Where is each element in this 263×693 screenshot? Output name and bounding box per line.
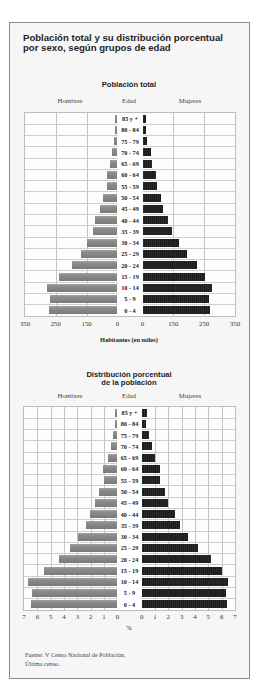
age-group-label: 15 - 19: [118, 271, 143, 282]
bar-hombres: [95, 216, 117, 224]
bar-hombres: [95, 499, 117, 507]
chart2-header-mujeres: Mujeres: [160, 392, 220, 399]
bar-hombres: [28, 578, 117, 586]
bar-hombres: [104, 476, 117, 484]
age-group-label: 10 - 14: [118, 282, 143, 293]
age-group-label: 80 - 84: [117, 418, 141, 429]
census-note: Último censo.: [25, 660, 60, 667]
bar-mujeres: [143, 182, 157, 190]
bar-mujeres: [142, 578, 229, 586]
chart2-title: Distribución porcentual de la población: [59, 371, 199, 388]
chart1-title: Población total: [59, 81, 199, 89]
chart2-plot-area: 85 y +80 - 8475 - 7970 - 7465 - 6960 - 6…: [23, 406, 236, 611]
age-group-label: 20 - 24: [117, 554, 141, 565]
age-group-label: 85 y +: [117, 407, 141, 418]
chart2-title-line2: de la población: [59, 379, 199, 387]
chart1-plot-area: 85 y +80 - 8475 - 7970 - 7465 - 6960 - 6…: [24, 112, 236, 317]
bar-hombres: [113, 431, 117, 439]
bar-hombres: [107, 182, 118, 190]
bar-hombres: [59, 555, 117, 563]
bar-mujeres: [142, 465, 160, 473]
bar-mujeres: [143, 227, 173, 235]
age-group-label: 25 - 29: [118, 248, 143, 259]
age-group-label: 35 - 39: [118, 226, 143, 237]
bar-hombres: [108, 454, 117, 462]
bar-hombres: [115, 126, 117, 134]
bar-mujeres: [143, 126, 146, 134]
age-group-label: 55 - 59: [117, 475, 141, 486]
bar-mujeres: [143, 261, 198, 269]
bar-hombres: [112, 148, 118, 156]
age-group-label: 35 - 39: [117, 520, 141, 531]
bar-mujeres: [143, 171, 157, 179]
bar-mujeres: [143, 284, 212, 292]
bar-mujeres: [143, 205, 164, 213]
age-group-label: 60 - 64: [117, 463, 141, 474]
bar-mujeres: [143, 250, 188, 258]
bar-mujeres: [142, 567, 222, 575]
bar-hombres: [59, 273, 118, 281]
bar-hombres: [44, 567, 117, 575]
figure-title-line2: por sexo, según grupos de edad: [23, 43, 223, 53]
bar-hombres: [103, 465, 117, 473]
bar-hombres: [103, 194, 118, 202]
bar-mujeres: [143, 148, 151, 156]
bar-mujeres: [143, 306, 211, 314]
bar-mujeres: [142, 409, 147, 417]
bar-hombres: [93, 227, 118, 235]
x-tick-label: 350: [15, 320, 35, 327]
bar-mujeres: [142, 476, 161, 484]
x-tick-label: 250: [46, 320, 66, 327]
age-group-label: 60 - 64: [118, 169, 143, 180]
age-group-label: 70 - 74: [117, 441, 141, 452]
bar-hombres: [50, 295, 118, 303]
bar-mujeres: [142, 600, 227, 608]
chart2-header-hombres: Hombres: [40, 392, 100, 399]
bar-mujeres: [143, 160, 153, 168]
bar-hombres: [47, 284, 118, 292]
bar-hombres: [49, 306, 118, 314]
bar-mujeres: [142, 442, 152, 450]
x-tick-label: 350: [225, 320, 245, 327]
bar-mujeres: [142, 533, 189, 541]
bar-hombres: [32, 589, 117, 597]
age-group-label: 5 - 9: [118, 293, 143, 304]
age-group-label: 75 - 79: [118, 136, 143, 147]
age-group-label: 10 - 14: [117, 576, 141, 587]
bar-mujeres: [142, 499, 168, 507]
bar-hombres: [115, 420, 118, 428]
age-group-label: 80 - 84: [118, 124, 143, 135]
age-group-label: 45 - 49: [117, 497, 141, 508]
bar-mujeres: [142, 488, 166, 496]
x-tick-label: 150: [163, 320, 183, 327]
age-group-label: 50 - 54: [117, 486, 141, 497]
bar-mujeres: [142, 431, 150, 439]
bar-hombres: [110, 160, 117, 168]
bar-mujeres: [142, 589, 227, 597]
bar-hombres: [115, 409, 117, 417]
x-tick-label: 7: [225, 613, 245, 620]
chart1-x-axis-label: Habitantes (en miles): [69, 336, 189, 343]
age-group-label: 5 - 9: [117, 587, 141, 598]
bar-mujeres: [142, 555, 211, 563]
age-group-label: 65 - 69: [118, 158, 143, 169]
bar-mujeres: [142, 510, 175, 518]
age-group-label: 85 y +: [118, 113, 143, 124]
age-group-label: 70 - 74: [118, 147, 143, 158]
bar-mujeres: [143, 273, 206, 281]
age-group-label: 65 - 69: [117, 452, 141, 463]
bar-mujeres: [143, 216, 168, 224]
chart2-x-axis-label: %: [69, 624, 189, 631]
age-group-label: 30 - 34: [117, 531, 141, 542]
x-tick-label: 0: [133, 320, 153, 327]
bar-hombres: [115, 115, 117, 123]
age-group-label: 40 - 44: [117, 509, 141, 520]
bar-hombres: [111, 442, 118, 450]
age-group-label: 50 - 54: [118, 192, 143, 203]
bar-hombres: [100, 205, 117, 213]
bar-hombres: [99, 488, 118, 496]
x-tick-label: 250: [194, 320, 214, 327]
chart2-header-edad: Edad: [99, 392, 159, 399]
bar-hombres: [87, 239, 118, 247]
age-group-label: 0 - 4: [118, 305, 143, 316]
